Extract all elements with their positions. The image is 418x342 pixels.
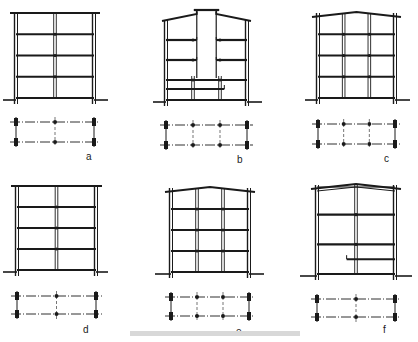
beam-joint [195, 207, 198, 210]
plan-column [367, 142, 371, 146]
plan-column [218, 123, 222, 127]
beam-joint [221, 249, 224, 252]
beam-joint [191, 78, 194, 81]
plan-wall-column [14, 118, 18, 126]
plan-wall-column [15, 292, 19, 300]
plan-column [367, 122, 371, 126]
panel-f: f [300, 184, 412, 335]
roof [312, 12, 401, 17]
plan-wall-column [169, 312, 173, 320]
plan-column [221, 314, 225, 318]
panel-d: d [3, 186, 108, 335]
beam-joint [368, 54, 371, 57]
plan-wall-column [15, 310, 19, 318]
plan-wall-column [393, 295, 397, 303]
plan-wall-column [164, 121, 168, 129]
plan-wall-column [92, 138, 96, 146]
plan-column [55, 312, 59, 316]
beam-joint [195, 228, 198, 231]
beam-joint [218, 38, 221, 41]
panel-e: e [155, 187, 264, 337]
plan-column [218, 143, 222, 147]
panel-a: a [3, 13, 108, 162]
beam-joint [342, 33, 345, 36]
plan-wall-column [393, 313, 397, 321]
plan-wall-column [14, 138, 18, 146]
beam-joint [342, 54, 345, 57]
beam-joint [53, 75, 56, 78]
panel-label-d: d [83, 324, 89, 335]
plan-column [354, 297, 358, 301]
beam-joint [191, 58, 194, 61]
beam-joint [221, 207, 224, 210]
plan-column [342, 142, 346, 146]
plan-wall-column [92, 118, 96, 126]
beam-joint [195, 249, 198, 252]
beam-joint [368, 33, 371, 36]
panel-label-c: c [384, 153, 389, 164]
beam-joint [55, 247, 58, 250]
plan-wall-column [393, 140, 397, 148]
beam-joint [342, 75, 345, 78]
beam-joint [55, 205, 58, 208]
beam-joint [354, 213, 357, 216]
beam-joint [53, 54, 56, 57]
roof [165, 187, 255, 192]
beam-joint [218, 78, 221, 81]
beam-joint [191, 38, 194, 41]
plan-wall-column [169, 293, 173, 301]
building-sections-diagram: abcdef [0, 0, 418, 342]
beam-joint [221, 228, 224, 231]
beam-joint [368, 75, 371, 78]
beam-joint [354, 243, 357, 246]
plan-wall-column [393, 120, 397, 128]
panel-label-f: f [383, 324, 386, 335]
panel-b: b [153, 10, 262, 165]
figure-caption-faint [130, 331, 300, 336]
plan-wall-column [247, 293, 251, 301]
panel-label-a: a [86, 151, 92, 162]
plan-wall-column [245, 121, 249, 129]
plan-wall-column [94, 310, 98, 318]
plan-column [342, 122, 346, 126]
roof [162, 10, 251, 21]
plan-wall-column [94, 292, 98, 300]
plan-column [195, 314, 199, 318]
plan-column [53, 140, 57, 144]
plan-column [55, 294, 59, 298]
beam-joint [53, 33, 56, 36]
plan-column [221, 295, 225, 299]
plan-wall-column [245, 141, 249, 149]
plan-wall-column [315, 313, 319, 321]
plan-wall-column [316, 120, 320, 128]
plan-wall-column [316, 140, 320, 148]
plan-column [191, 123, 195, 127]
plan-column [354, 315, 358, 319]
plan-column [191, 143, 195, 147]
beam-joint [55, 226, 58, 229]
panel-c: c [305, 12, 410, 164]
beam-joint [218, 58, 221, 61]
plan-column [53, 120, 57, 124]
plan-wall-column [164, 141, 168, 149]
plan-wall-column [315, 295, 319, 303]
plan-wall-column [247, 312, 251, 320]
panel-label-b: b [237, 154, 243, 165]
plan-column [195, 295, 199, 299]
